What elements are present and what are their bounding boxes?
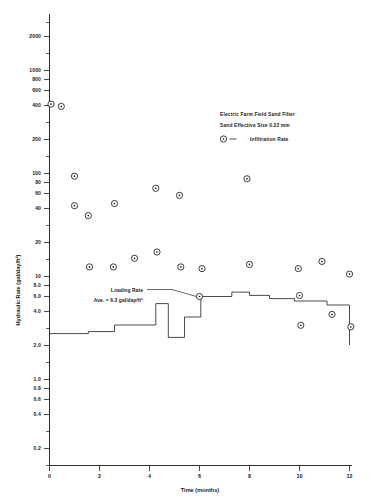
data-point	[176, 192, 182, 198]
y-tick-label: 10	[35, 273, 41, 279]
y-tick-label: 0.2	[34, 445, 41, 451]
y-tick-label: 1.0	[34, 376, 41, 382]
y-axis-title: Hydraulic Rate (gal/day/ft²)	[15, 254, 21, 325]
data-point	[71, 203, 77, 209]
x-axis-title: Time (months)	[181, 487, 220, 493]
hydraulic-rate-log-scatter-chart: 2000 1000 800 600 400 200 100 80 60 40 2…	[0, 0, 374, 500]
data-point	[154, 249, 160, 255]
y-tick-label: 60	[35, 190, 41, 196]
x-tick-label: 10	[297, 473, 303, 479]
legend-entry-label: Infiltration Rate	[250, 137, 289, 142]
data-point	[178, 264, 184, 270]
data-point	[111, 200, 117, 206]
data-point	[246, 261, 252, 267]
data-point	[131, 255, 137, 261]
y-tick-label: 6.0	[34, 293, 41, 299]
legend-line-1: Electric Farm Field Sand Filter	[220, 112, 295, 117]
data-point	[346, 271, 352, 277]
x-tick-label: 0	[48, 473, 51, 479]
annotation-loading-rate-label: Loading Rate	[111, 288, 143, 293]
y-tick-label: 0.6	[34, 396, 41, 402]
data-point	[86, 264, 92, 270]
data-point	[58, 103, 64, 109]
data-point	[110, 264, 116, 270]
x-tick-label: 6	[198, 473, 201, 479]
y-tick-label: 100	[32, 170, 41, 176]
data-point	[319, 258, 325, 264]
chart-figure: 2000 1000 800 600 400 200 100 80 60 40 2…	[0, 0, 374, 500]
y-tick-label: 0.8	[34, 385, 41, 391]
x-tick-label: 12	[347, 473, 353, 479]
data-point	[244, 176, 250, 182]
x-tick-label: 4	[148, 473, 151, 479]
y-tick-label: 8.0	[34, 282, 41, 288]
y-tick-label: 400	[32, 102, 41, 108]
data-point	[85, 213, 91, 219]
legend-line-2: Sand Effective Size 0.22 mm	[220, 123, 290, 128]
data-point	[296, 292, 302, 298]
data-point	[298, 322, 304, 328]
y-tick-label: 200	[32, 136, 41, 142]
y-tick-label: 1000	[29, 67, 41, 73]
data-point	[329, 311, 335, 317]
data-point	[196, 293, 202, 299]
annotation-average-label: Ave. = 6.3 gal/day/ft²	[94, 298, 143, 303]
x-tick-label: 2	[98, 473, 101, 479]
legend-marker-dot-icon	[223, 138, 225, 140]
y-tick-label: 2000	[29, 33, 41, 39]
y-tick-label: 2.0	[34, 342, 41, 348]
y-tick-label: 800	[32, 76, 41, 82]
y-tick-label: 40	[35, 205, 41, 211]
chart-background	[0, 0, 374, 500]
y-tick-label: 20	[35, 239, 41, 245]
data-point	[199, 266, 205, 272]
y-tick-label: 0.4	[34, 411, 41, 417]
data-point	[295, 266, 301, 272]
y-tick-label: 600	[32, 87, 41, 93]
data-point	[71, 173, 77, 179]
data-point	[153, 185, 159, 191]
y-tick-label: 80	[35, 179, 41, 185]
data-point	[348, 324, 354, 330]
data-point	[48, 101, 54, 107]
y-tick-label: 4.0	[34, 308, 41, 314]
x-tick-label: 8	[248, 473, 251, 479]
